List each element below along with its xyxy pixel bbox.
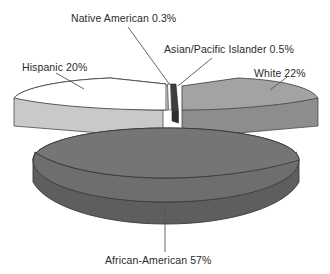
leader-line-native-american (128, 27, 170, 85)
asian-pacific-islander-slice-top (171, 84, 179, 112)
slice-label-native-american: Native American 0.3% (71, 12, 176, 24)
slice-label-white: White 22% (254, 67, 306, 79)
leader-line-asian-pacific-islander (178, 58, 212, 86)
asian-pacific-islander-slice-side (172, 112, 179, 123)
african-american-slice-group (33, 128, 299, 224)
slice-label-asian-pacific-islander: Asian/Pacific Islander 0.5% (164, 43, 294, 55)
slice-label-hispanic: Hispanic 20% (22, 61, 87, 73)
pie-chart-graphic (0, 0, 330, 274)
slice-label-african-american: African-American 57% (105, 254, 211, 266)
pie-chart-figure: Native American 0.3% Asian/Pacific Islan… (0, 0, 330, 274)
